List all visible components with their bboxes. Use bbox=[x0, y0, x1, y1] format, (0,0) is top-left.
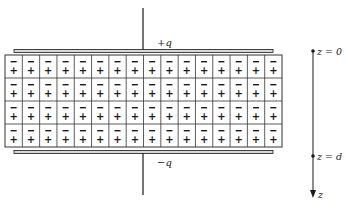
negative-charge-icon bbox=[218, 107, 224, 108]
z-d-marker bbox=[311, 154, 315, 158]
positive-charge-icon: + bbox=[9, 134, 17, 145]
negative-charge-icon bbox=[270, 107, 276, 108]
positive-charge-icon: + bbox=[61, 111, 69, 122]
negative-charge-icon bbox=[184, 107, 190, 108]
negative-charge-icon bbox=[80, 107, 86, 108]
negative-charge-icon bbox=[253, 130, 259, 131]
negative-charge-icon bbox=[218, 130, 224, 131]
positive-charge-icon: + bbox=[252, 111, 260, 122]
negative-charge-icon bbox=[184, 61, 190, 62]
negative-charge-icon bbox=[11, 84, 17, 85]
positive-charge-icon: + bbox=[131, 65, 139, 76]
negative-charge-icon bbox=[132, 107, 138, 108]
negative-charge-icon bbox=[201, 61, 207, 62]
negative-charge-icon bbox=[236, 107, 242, 108]
dielectric-grid: ++++++++++++++++++++++++++++++++++++++++… bbox=[5, 55, 282, 147]
negative-charge-icon bbox=[236, 84, 242, 85]
positive-charge-icon: + bbox=[79, 111, 87, 122]
negative-charge-icon bbox=[11, 61, 17, 62]
positive-charge-icon: + bbox=[79, 134, 87, 145]
positive-charge-icon: + bbox=[148, 65, 156, 76]
positive-charge-icon: + bbox=[165, 111, 173, 122]
negative-charge-icon bbox=[166, 107, 172, 108]
positive-charge-icon: + bbox=[165, 88, 173, 99]
z-axis-label: z bbox=[317, 189, 324, 200]
negative-charge-icon bbox=[253, 107, 259, 108]
negative-charge-icon bbox=[28, 107, 34, 108]
positive-charge-icon: + bbox=[165, 134, 173, 145]
negative-charge-icon bbox=[132, 61, 138, 62]
negative-charge-icon bbox=[253, 84, 259, 85]
positive-charge-icon: + bbox=[252, 65, 260, 76]
positive-charge-icon: + bbox=[217, 65, 225, 76]
negative-charge-icon bbox=[184, 84, 190, 85]
positive-charge-icon: + bbox=[131, 111, 139, 122]
positive-charge-icon: + bbox=[131, 88, 139, 99]
positive-charge-icon: + bbox=[61, 65, 69, 76]
positive-charge-icon: + bbox=[9, 111, 17, 122]
negative-charge-icon bbox=[80, 61, 86, 62]
negative-charge-icon bbox=[201, 130, 207, 131]
negative-charge-icon bbox=[132, 84, 138, 85]
negative-charge-icon bbox=[201, 107, 207, 108]
negative-charge-icon bbox=[45, 107, 51, 108]
negative-charge-icon bbox=[63, 107, 69, 108]
negative-charge-icon bbox=[97, 84, 103, 85]
positive-charge-icon: + bbox=[235, 111, 243, 122]
negative-charge-icon bbox=[218, 84, 224, 85]
positive-charge-icon: + bbox=[113, 134, 121, 145]
positive-charge-icon: + bbox=[235, 134, 243, 145]
positive-charge-icon: + bbox=[9, 88, 17, 99]
negative-charge-icon bbox=[115, 107, 121, 108]
positive-charge-icon: + bbox=[148, 134, 156, 145]
negative-charge-icon bbox=[149, 130, 155, 131]
positive-charge-icon: + bbox=[217, 88, 225, 99]
negative-charge-icon bbox=[270, 130, 276, 131]
positive-charge-icon: + bbox=[200, 111, 208, 122]
positive-charge-icon: + bbox=[269, 88, 277, 99]
negative-charge-icon bbox=[166, 61, 172, 62]
z-d-label: z = d bbox=[316, 151, 342, 162]
positive-charge-icon: + bbox=[200, 134, 208, 145]
positive-charge-icon: + bbox=[44, 134, 52, 145]
negative-charge-icon bbox=[184, 130, 190, 131]
positive-charge-icon: + bbox=[183, 65, 191, 76]
top-plate-charge-label: +q bbox=[157, 37, 172, 48]
negative-charge-icon bbox=[11, 107, 17, 108]
negative-charge-icon bbox=[149, 84, 155, 85]
negative-charge-icon bbox=[115, 130, 121, 131]
negative-charge-icon bbox=[11, 130, 17, 131]
negative-charge-icon bbox=[97, 107, 103, 108]
positive-charge-icon: + bbox=[235, 65, 243, 76]
positive-charge-icon: + bbox=[183, 111, 191, 122]
negative-charge-icon bbox=[97, 130, 103, 131]
negative-charge-icon bbox=[80, 84, 86, 85]
positive-charge-icon: + bbox=[269, 65, 277, 76]
negative-charge-icon bbox=[28, 61, 34, 62]
negative-charge-icon bbox=[115, 84, 121, 85]
positive-charge-icon: + bbox=[27, 134, 35, 145]
negative-charge-icon bbox=[236, 130, 242, 131]
capacitor-diagram: +q +++++++++++++++++++++++++++++++++++++… bbox=[0, 0, 346, 207]
negative-charge-icon bbox=[149, 107, 155, 108]
negative-charge-icon bbox=[218, 61, 224, 62]
negative-charge-icon bbox=[45, 61, 51, 62]
positive-charge-icon: + bbox=[131, 134, 139, 145]
positive-charge-icon: + bbox=[9, 65, 17, 76]
negative-charge-icon bbox=[115, 61, 121, 62]
positive-charge-icon: + bbox=[183, 134, 191, 145]
top-plate bbox=[14, 50, 273, 53]
negative-charge-icon bbox=[28, 84, 34, 85]
negative-charge-icon bbox=[63, 130, 69, 131]
positive-charge-icon: + bbox=[200, 88, 208, 99]
positive-charge-icon: + bbox=[79, 88, 87, 99]
negative-charge-icon bbox=[80, 130, 86, 131]
negative-charge-icon bbox=[28, 130, 34, 131]
z-zero-marker bbox=[311, 49, 315, 53]
positive-charge-icon: + bbox=[113, 111, 121, 122]
negative-charge-icon bbox=[270, 84, 276, 85]
positive-charge-icon: + bbox=[269, 111, 277, 122]
negative-charge-icon bbox=[236, 61, 242, 62]
bottom-plate-charge-label: −q bbox=[157, 157, 172, 168]
negative-charge-icon bbox=[166, 84, 172, 85]
